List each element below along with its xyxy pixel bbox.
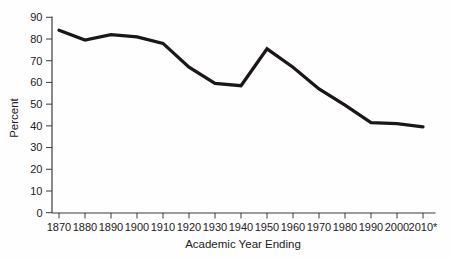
y-tick-label: 40 [30, 120, 42, 132]
x-tick-label: 2000 [385, 221, 409, 233]
x-tick-label: 1970 [307, 221, 331, 233]
line-chart-svg: 0102030405060708090 18701880189019001910… [0, 0, 451, 260]
y-axis-ticks: 0102030405060708090 [30, 11, 52, 218]
x-tick-label: 1920 [177, 221, 201, 233]
y-tick-label: 50 [30, 98, 42, 110]
y-tick-label: 10 [30, 185, 42, 197]
x-tick-label: 1990 [359, 221, 383, 233]
x-axis-title: Academic Year Ending [185, 238, 301, 250]
data-series [59, 30, 423, 127]
y-tick-label: 30 [30, 141, 42, 153]
x-tick-label: 1870 [47, 221, 71, 233]
x-tick-label: 1880 [73, 221, 97, 233]
y-tick-label: 60 [30, 76, 42, 88]
x-tick-label: 1980 [333, 221, 357, 233]
y-tick-label: 0 [36, 207, 42, 219]
x-tick-label: 1900 [125, 221, 149, 233]
data-polyline [59, 30, 423, 127]
x-tick-label: 1960 [281, 221, 305, 233]
y-tick-label: 70 [30, 55, 42, 67]
x-tick-label: 1890 [99, 221, 123, 233]
y-axis-title: Percent [8, 97, 20, 137]
x-tick-label: 2010* [409, 221, 438, 233]
x-tick-label: 1910 [151, 221, 175, 233]
x-axis-ticks: 1870188018901900191019201930194019501960… [47, 213, 438, 233]
x-tick-label: 1940 [229, 221, 253, 233]
y-tick-label: 20 [30, 163, 42, 175]
y-tick-label: 90 [30, 11, 42, 23]
line-chart-figure: 0102030405060708090 18701880189019001910… [0, 0, 451, 260]
x-tick-label: 1930 [203, 221, 227, 233]
x-tick-label: 1950 [255, 221, 279, 233]
y-tick-label: 80 [30, 33, 42, 45]
